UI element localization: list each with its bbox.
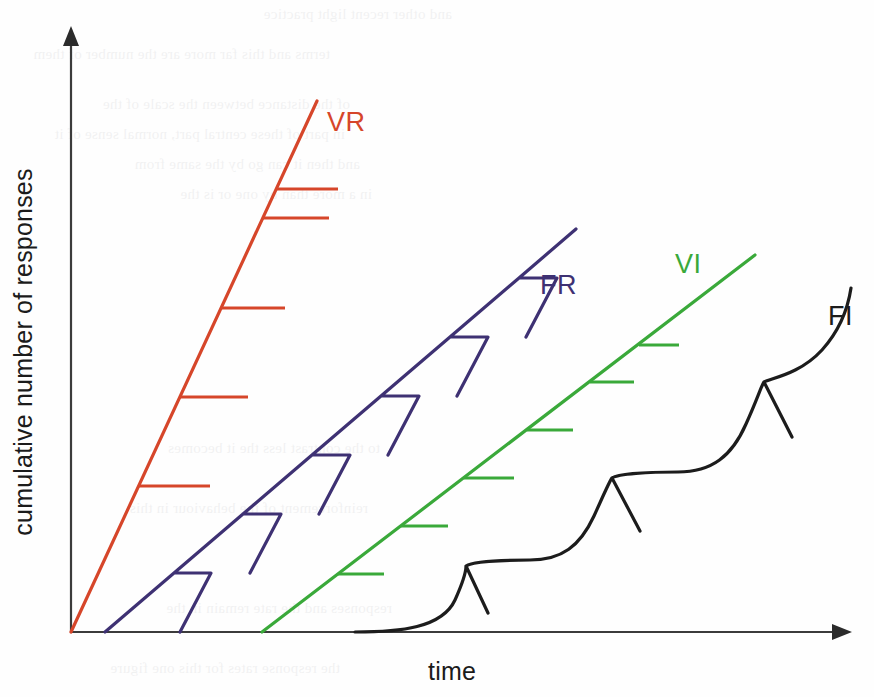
cumulative-record-chart: time cumulative number of responses VR F… bbox=[0, 0, 874, 697]
vi-response-line bbox=[262, 255, 755, 632]
fi-series-label: FI bbox=[828, 301, 853, 331]
fi-response-scallops bbox=[355, 288, 851, 632]
x-axis-arrow-icon bbox=[832, 624, 852, 640]
series-vr: VR bbox=[71, 101, 365, 632]
series-vi: VI bbox=[262, 249, 755, 632]
y-axis-arrow-icon bbox=[63, 26, 79, 46]
x-axis-title: time bbox=[428, 657, 476, 685]
vr-response-line bbox=[71, 101, 317, 632]
fr-series-label: FR bbox=[540, 270, 577, 300]
figure-root: and other recent light practice terms an… bbox=[0, 0, 874, 697]
y-axis-title: cumulative number of responses bbox=[9, 168, 37, 535]
axes-group bbox=[63, 26, 852, 640]
vr-series-label: VR bbox=[327, 107, 365, 137]
vi-series-label: VI bbox=[675, 249, 701, 279]
series-fi: FI bbox=[355, 288, 853, 632]
